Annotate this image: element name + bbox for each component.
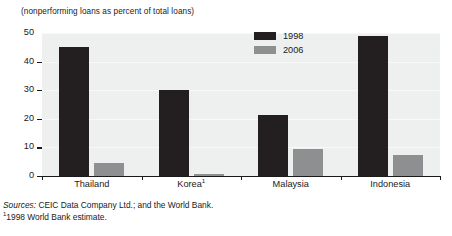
bar-korea-1998: [159, 90, 189, 176]
gridline: [42, 33, 440, 34]
x-axis-end-tick: [440, 176, 441, 180]
legend-label-2006: 2006: [283, 45, 303, 55]
bar-malaysia-1998: [258, 115, 288, 176]
chart-legend: 19982006: [254, 29, 324, 57]
x-axis-start-tick: [42, 176, 43, 180]
bar-thailand-1998: [59, 47, 89, 176]
plot-area: [42, 33, 440, 177]
bar-thailand-2006: [94, 163, 124, 176]
x-axis-label-indonesia: Indonesia: [370, 179, 410, 189]
x-axis-divider: [241, 176, 242, 180]
bar-indonesia-2006: [393, 155, 423, 176]
y-axis: 01020304050: [0, 33, 42, 176]
legend-item-1998: 1998: [254, 29, 324, 42]
x-axis-divider: [341, 176, 342, 180]
y-axis-tick-label: 30: [24, 84, 34, 94]
x-axis-label-korea: Korea1: [177, 179, 205, 189]
sources-note: Sources: CEIC Data Company Ltd.; and the…: [3, 200, 449, 212]
y-axis-tick-label: 50: [24, 27, 34, 37]
chart-notes: Sources: CEIC Data Company Ltd.; and the…: [3, 200, 449, 223]
x-axis-footnote-marker: 1: [202, 177, 205, 184]
bar-korea-2006: [194, 174, 224, 176]
y-axis-tick-label: 40: [24, 56, 34, 66]
chart-units-caption: (nonperforming loans as percent of total…: [21, 7, 194, 16]
sources-label: Sources:: [3, 200, 36, 210]
bar-indonesia-1998: [358, 36, 388, 176]
bar-malaysia-2006: [293, 149, 323, 176]
legend-item-2006: 2006: [254, 43, 324, 56]
chart-figure: (nonperforming loans as percent of total…: [0, 0, 452, 236]
y-axis-tick-label: 20: [24, 113, 34, 123]
x-axis-label-malaysia: Malaysia: [273, 179, 309, 189]
footnote-line: 11998 World Bank estimate.: [3, 212, 449, 224]
legend-swatch-2006: [254, 46, 276, 54]
x-axis-divider: [142, 176, 143, 180]
legend-label-1998: 1998: [283, 31, 303, 41]
legend-swatch-1998: [254, 32, 276, 40]
y-axis-tick-label: 0: [29, 170, 34, 180]
sources-text: CEIC Data Company Ltd.; and the World Ba…: [36, 200, 213, 210]
y-axis-tick-label: 10: [24, 141, 34, 151]
x-axis-label-thailand: Thailand: [74, 179, 109, 189]
footnote-text: 1998 World Bank estimate.: [6, 212, 106, 222]
